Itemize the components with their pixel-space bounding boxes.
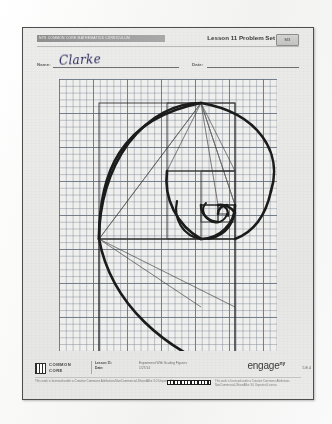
footer-divider <box>91 361 92 374</box>
curriculum-banner: NYS COMMON CORE MATHEMATICS CURRICULUM <box>37 35 165 42</box>
creative-commons-note: This work is licensed under a Creative C… <box>215 379 301 387</box>
footer-lesson-label: Lesson 11: <box>95 361 112 365</box>
creative-commons-badge <box>167 380 211 385</box>
page-header: NYS COMMON CORE MATHEMATICS CURRICULUM L… <box>37 34 299 45</box>
footer-meta-values: Experiment With Scaling Figures 1/27/14 <box>139 361 219 371</box>
footer-attribution: This work is licensed under a Creative C… <box>35 379 183 383</box>
name-label: Name: <box>37 62 51 67</box>
footer-meta-labels: Lesson 11: Date: <box>95 361 112 371</box>
engage-word: engage <box>247 360 279 371</box>
engage-ny-superscript: ny <box>280 360 285 366</box>
common-core-logo-text: COMMON CORE <box>49 362 71 374</box>
common-core-barcode-icon <box>35 363 46 374</box>
engageny-logo: engageny <box>247 360 285 371</box>
page-footer: COMMON CORE Lesson 11: Date: Experiment … <box>35 360 301 394</box>
header-divider <box>37 46 299 47</box>
date-label: Date: <box>192 62 204 67</box>
common-core-line2: CORE <box>49 368 63 373</box>
common-core-logo: COMMON CORE <box>35 362 87 375</box>
page-number: 5.E.4 <box>303 366 311 370</box>
graph-paper-region <box>59 79 277 351</box>
golden-spiral-figure <box>59 79 277 351</box>
footer-date-label: Date: <box>95 366 103 370</box>
worksheet-page: NYS COMMON CORE MATHEMATICS CURRICULUM L… <box>22 27 314 400</box>
footer-lesson-value: Experiment With Scaling Figures <box>139 361 187 365</box>
footer-date-value: 1/27/14 <box>139 366 150 370</box>
name-date-row: Name: Clarke Date: <box>37 54 299 70</box>
page-title: Lesson 11 Problem Set <box>207 34 275 41</box>
common-core-line1: COMMON <box>49 362 71 367</box>
date-rule <box>207 67 299 68</box>
module-badge: M3 <box>276 34 299 46</box>
name-handwritten-value: Clarke <box>59 52 102 68</box>
footer-divider-rule <box>35 377 301 378</box>
creative-commons-badge-inner <box>168 381 210 384</box>
